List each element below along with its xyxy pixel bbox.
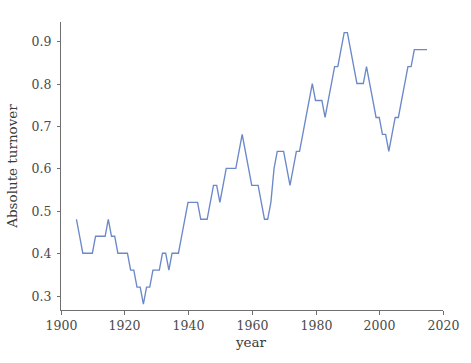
y-tick-label-0.7: 0.7 [32, 119, 52, 134]
line-chart-canvas: 0.30.40.50.60.70.80.9 190019201940196019… [0, 0, 471, 363]
y-axis-title: Absolute turnover [4, 104, 20, 229]
y-axis-tickmarks [57, 42, 61, 297]
x-axis-tick-labels: 1900192019401960198020002020 [46, 318, 460, 333]
x-tick-label-1940: 1940 [173, 318, 205, 333]
axes-spines [61, 22, 444, 311]
data-series-group [76, 33, 427, 305]
x-axis-title: year [235, 334, 267, 350]
y-tick-label-0.8: 0.8 [32, 77, 52, 92]
x-tick-label-2000: 2000 [364, 318, 396, 333]
series-line-absolute-turnover [76, 33, 427, 305]
y-tick-label-0.6: 0.6 [32, 161, 52, 176]
x-tick-label-1960: 1960 [237, 318, 269, 333]
x-tick-label-1900: 1900 [46, 318, 78, 333]
x-tick-label-1980: 1980 [301, 318, 333, 333]
y-tick-label-0.4: 0.4 [32, 246, 52, 261]
y-tick-label-0.9: 0.9 [32, 34, 52, 49]
chart-figure: 0.30.40.50.60.70.80.9 190019201940196019… [0, 0, 471, 363]
y-tick-label-0.3: 0.3 [32, 289, 52, 304]
x-tick-label-1920: 1920 [109, 318, 141, 333]
y-tick-label-0.5: 0.5 [32, 204, 52, 219]
x-axis-tickmarks [62, 311, 444, 315]
y-axis-tick-labels: 0.30.40.50.60.70.80.9 [32, 34, 52, 304]
x-tick-label-2020: 2020 [428, 318, 460, 333]
